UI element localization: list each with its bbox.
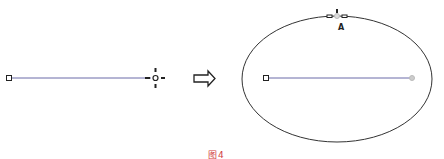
right-figure (242, 9, 432, 142)
figure-caption: 图4 (208, 151, 225, 159)
right-arrow-icon (194, 71, 215, 86)
start-handle-icon[interactable] (7, 76, 12, 81)
right-end-handle-icon[interactable] (410, 76, 415, 81)
right-start-handle-icon[interactable] (264, 76, 269, 81)
top-resize-handles[interactable] (327, 9, 347, 19)
left-figure (7, 68, 166, 88)
point-label-a: A (338, 23, 345, 32)
crosshair-move-icon[interactable] (145, 68, 165, 88)
ellipse-shape[interactable] (242, 16, 432, 142)
diagram-canvas: A (0, 0, 444, 159)
